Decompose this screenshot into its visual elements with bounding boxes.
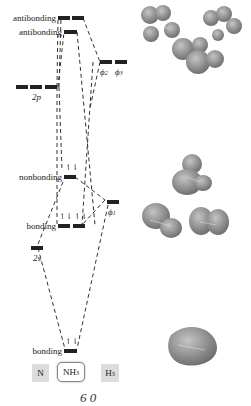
electrons-nonbonding: ↿⇂ (65, 163, 78, 173)
label-antibonding-upper: antibonding (0, 13, 56, 23)
label-bonding-middle: bonding (0, 221, 56, 231)
orbital-antibonding-1 (141, 5, 180, 42)
orbital-antibonding-2 (203, 6, 242, 41)
orbital-antibonding-3 (172, 37, 224, 74)
label-antibonding-lower: antibonding (0, 27, 62, 37)
column-label-h3: H3 (101, 364, 119, 382)
orbital-bonding-2 (189, 207, 229, 235)
level-bars (16, 16, 127, 353)
electrons-bonding-bottom: ↿⇂ (65, 337, 78, 347)
column-label-n: N (32, 364, 49, 382)
correlation-lines (38, 18, 108, 349)
label-nonbonding: nonbonding (0, 172, 62, 182)
electrons-bonding-1: ↿⇂ (59, 212, 72, 222)
footer-partial-text: 6 0 (80, 390, 96, 406)
orbital-images (141, 5, 242, 366)
label-2p: 2p (32, 92, 41, 102)
label-phi1: ϕ1 (108, 207, 116, 218)
label-phi2: ϕ2 (100, 67, 108, 78)
label-phi3: ϕ3 (115, 67, 123, 78)
orbital-nonbonding (172, 154, 212, 195)
column-label-nh3: NH3 (57, 362, 85, 382)
electrons-bonding-2: ↿⇂ (74, 212, 87, 222)
label-bonding-bottom: bonding (0, 346, 62, 356)
orbital-bonding-bottom (168, 327, 217, 366)
orbital-bonding-1 (142, 203, 182, 238)
label-2s: 2s (33, 253, 41, 263)
